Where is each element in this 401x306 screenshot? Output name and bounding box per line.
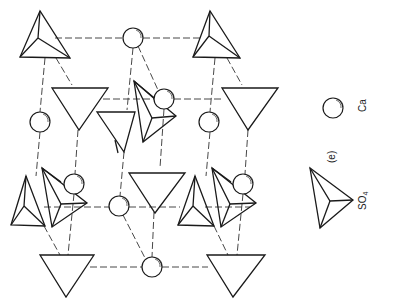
anhydrite-crystal-structure-diagram: Ca (e) SO4: [0, 0, 401, 306]
so4-tetrahedron: [207, 255, 265, 297]
ca-ion: [233, 174, 253, 194]
so4-tetrahedron: [222, 88, 278, 130]
ca-ion: [199, 112, 219, 132]
so4-tetrahedron: [20, 11, 70, 58]
ca-ion: [154, 89, 174, 109]
ca-ion: [142, 257, 162, 277]
legend-label-so4: SO4: [357, 192, 369, 210]
so4-tetrahedron: [11, 176, 45, 226]
so4-tetrahedron-icon: [310, 168, 353, 228]
legend-label-ca: Ca: [357, 99, 368, 112]
ca-ion: [123, 28, 143, 48]
ca-ion: [30, 112, 50, 132]
so4-tetrahedron: [129, 173, 185, 213]
legend-item-so4: SO4: [310, 168, 369, 228]
legend-item-ca: Ca: [323, 98, 368, 118]
ca-sphere-icon: [323, 98, 343, 118]
ca-ion: [109, 196, 129, 216]
unit-cell-edges: [36, 38, 250, 267]
ca-ion: [64, 174, 84, 194]
so4-tetrahedron: [97, 112, 135, 153]
so4-tetrahedron: [193, 11, 240, 58]
so4-tetrahedron: [178, 176, 214, 226]
panel-label: (e): [326, 151, 337, 163]
so4-tetrahedron: [40, 255, 94, 297]
so4-tetrahedron: [52, 88, 108, 130]
legend: Ca (e) SO4: [310, 98, 369, 228]
